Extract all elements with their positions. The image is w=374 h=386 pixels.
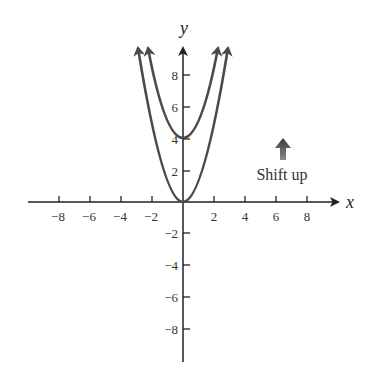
- arrow-up-icon: [275, 138, 291, 160]
- svg-text:−8: −8: [164, 322, 178, 337]
- chart-canvas: −8 −6 −4 −2 2 4 6 8 8 6 4 2 −2 −4 −6 −8 …: [0, 0, 374, 386]
- svg-text:2: 2: [172, 164, 179, 179]
- svg-text:−6: −6: [82, 209, 96, 224]
- svg-text:−6: −6: [164, 290, 178, 305]
- shift-up-label: Shift up: [256, 166, 307, 184]
- svg-text:−8: −8: [51, 209, 65, 224]
- svg-text:2: 2: [211, 209, 218, 224]
- svg-text:−2: −2: [164, 226, 178, 241]
- svg-text:−4: −4: [113, 209, 127, 224]
- x-axis-label: x: [345, 192, 354, 212]
- x-tick-labels: −8 −6 −4 −2 2 4 6 8: [51, 209, 310, 224]
- svg-text:−4: −4: [164, 258, 178, 273]
- svg-text:8: 8: [172, 68, 179, 83]
- svg-text:8: 8: [304, 209, 311, 224]
- parabola-y-equals-x-squared-right: [183, 48, 228, 202]
- svg-text:4: 4: [242, 209, 249, 224]
- svg-text:6: 6: [273, 209, 280, 224]
- svg-text:6: 6: [172, 100, 179, 115]
- y-axis-label: y: [178, 18, 188, 38]
- shift-up-annotation: Shift up: [256, 138, 307, 184]
- svg-text:−2: −2: [144, 209, 158, 224]
